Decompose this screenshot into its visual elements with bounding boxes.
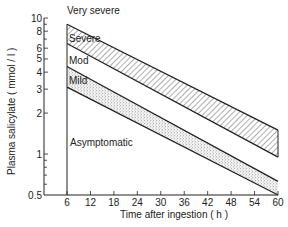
y-axis-title: Plasma salicylate ( mmol / l ) [6, 48, 17, 175]
y-tick-label: 0.5 [28, 190, 42, 201]
x-tick-label: 48 [226, 197, 238, 208]
y-tick-label: 5 [36, 53, 42, 64]
y-tick-label: 10 [31, 13, 43, 24]
y-tick-label: 8 [36, 26, 42, 37]
label-very-severe: Very severe [67, 5, 120, 16]
label-asymptomatic: Asymptomatic [70, 137, 133, 148]
x-tick-label: 6 [64, 197, 70, 208]
y-tick-label: 6 [36, 43, 42, 54]
severity-bands [67, 24, 278, 195]
y-tick-label: 3 [36, 84, 42, 95]
y-tick-label: 2 [36, 108, 42, 119]
x-tick-label: 24 [132, 197, 144, 208]
label-severe: Severe [69, 33, 101, 44]
nomogram-chart: 0.51234568106121824303642485460 Very sev… [0, 0, 288, 227]
x-tick-label: 12 [85, 197, 97, 208]
x-tick-label: 18 [108, 197, 120, 208]
x-axis-title: Time after ingestion ( h ) [120, 209, 228, 220]
y-tick-label: 4 [36, 67, 42, 78]
label-mod: Mod [69, 55, 88, 66]
y-tick-label: 1 [36, 149, 42, 160]
x-tick-label: 42 [202, 197, 214, 208]
x-tick-label: 30 [155, 197, 167, 208]
label-mild: Mild [69, 75, 87, 86]
x-tick-label: 54 [249, 197, 261, 208]
x-tick-label: 36 [179, 197, 191, 208]
x-tick-label: 60 [272, 197, 284, 208]
